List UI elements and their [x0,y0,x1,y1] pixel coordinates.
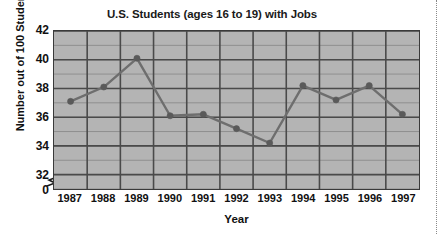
data-point [167,113,173,119]
x-tick-label: 1994 [291,192,315,204]
y-tick-label: 42 [25,24,49,36]
x-tick-label: 1990 [158,192,182,204]
x-tick-label: 1995 [324,192,348,204]
x-tick-label: 1991 [191,192,215,204]
data-point [101,84,107,90]
data-point [366,83,372,89]
data-point [200,111,206,117]
data-point [233,126,239,132]
page-edge-rule [436,0,437,234]
data-point [300,83,306,89]
vertical-gridlines [87,31,386,189]
data-point [68,98,74,104]
data-point [399,111,405,117]
chart-canvas [54,31,419,189]
y-tick-label: 36 [25,111,49,123]
x-tick-label: 1993 [258,192,282,204]
x-tick-label: 1996 [358,192,382,204]
x-tick-label: 1989 [124,192,148,204]
y-tick-label: 40 [25,53,49,65]
x-tick-label: 1997 [391,192,415,204]
x-axis-title: Year [53,213,420,225]
chart-title: U.S. Students (ages 16 to 19) with Jobs [0,8,424,20]
y-tick-label: 38 [25,82,49,94]
x-tick-label: 1987 [57,192,81,204]
y-tick-label: 34 [25,140,49,152]
x-tick-label: 1992 [224,192,248,204]
y-axis-tick-labels: 0323436384042 [21,30,49,190]
minor-gridlines [54,31,419,189]
data-point [333,97,339,103]
plot-area [53,30,420,190]
data-point [267,140,273,146]
x-tick-label: 1988 [91,192,115,204]
data-point [134,55,140,61]
data-markers [68,55,406,146]
chart-figure: U.S. Students (ages 16 to 19) with Jobs … [0,0,448,234]
x-axis-tick-labels: 1987198819891990199119921993199419951996… [53,192,420,208]
